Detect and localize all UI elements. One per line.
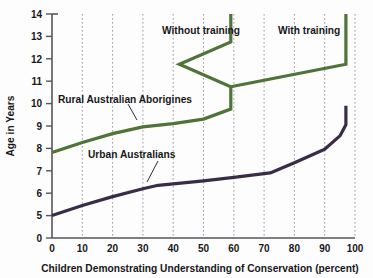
y-tick-14: 14 bbox=[31, 9, 43, 20]
y-tick-8: 8 bbox=[36, 143, 42, 154]
x-tick-90: 90 bbox=[319, 243, 331, 254]
x-tick-80: 80 bbox=[289, 243, 301, 254]
annotation-with-training: With training bbox=[278, 25, 340, 36]
annotation-without-training: Without training bbox=[162, 25, 240, 36]
x-tick-10: 10 bbox=[77, 243, 89, 254]
x-tick-0: 0 bbox=[49, 243, 55, 254]
x-tick-40: 40 bbox=[168, 243, 180, 254]
y-tick-6: 6 bbox=[36, 188, 42, 199]
y-axis-title: Age in Years bbox=[5, 95, 16, 156]
y-tick-5: 5 bbox=[36, 210, 42, 221]
y-tick-0: 0 bbox=[36, 233, 42, 244]
x-tick-50: 50 bbox=[198, 243, 210, 254]
chart-container: 14 13 12 11 10 9 8 7 6 5 0 0 10 20 30 40… bbox=[0, 0, 373, 278]
x-tick-30: 30 bbox=[137, 243, 149, 254]
line-chart: 14 13 12 11 10 9 8 7 6 5 0 0 10 20 30 40… bbox=[0, 0, 373, 278]
y-tick-10: 10 bbox=[31, 98, 43, 109]
y-tick-13: 13 bbox=[31, 31, 43, 42]
annotation-rural-aborigines: Rural Australian Aborigines bbox=[58, 94, 192, 105]
y-axis-ticks bbox=[46, 14, 52, 238]
x-tick-20: 20 bbox=[107, 243, 119, 254]
y-tick-12: 12 bbox=[31, 54, 43, 65]
x-tick-100: 100 bbox=[347, 243, 364, 254]
x-tick-60: 60 bbox=[228, 243, 240, 254]
x-tick-70: 70 bbox=[259, 243, 271, 254]
x-axis-title: Children Demonstrating Understanding of … bbox=[41, 263, 359, 274]
y-tick-7: 7 bbox=[36, 166, 42, 177]
y-tick-11: 11 bbox=[31, 76, 42, 87]
y-tick-9: 9 bbox=[36, 121, 42, 132]
annotation-urban-australians: Urban Australians bbox=[88, 149, 176, 160]
